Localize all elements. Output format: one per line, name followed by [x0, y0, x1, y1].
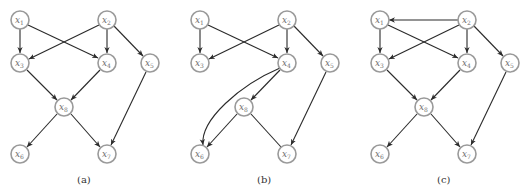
node-x4: x4 [278, 54, 296, 72]
graph-a: x1 x2 x3 x4 x5 x8 x6 x7 (a) [11, 11, 159, 185]
node-x1: x1 [371, 11, 389, 29]
node-x6: x6 [191, 145, 209, 163]
node-x7: x7 [278, 145, 296, 163]
graph-b: x1 x2 x3 x4 x5 x8 x6 x7 (b) [191, 11, 339, 185]
node-x1: x1 [11, 11, 29, 29]
caption-c: (c) [437, 174, 451, 185]
node-x5: x5 [501, 54, 519, 72]
node-x4: x4 [458, 54, 476, 72]
node-x2: x2 [98, 11, 116, 29]
edge-x1-x4 [28, 25, 98, 58]
edge-x1-x4 [388, 25, 458, 58]
edge-x1-x4 [208, 25, 278, 58]
edge-x8-x7-undirected [251, 114, 281, 147]
edge-x2-x5 [474, 26, 503, 56]
edge-x8-x6 [27, 114, 57, 147]
node-x2: x2 [278, 11, 296, 29]
node-x2: x2 [458, 11, 476, 29]
caption-b: (b) [257, 174, 271, 185]
edge-x4-x8 [431, 70, 460, 100]
edge-x2-x5 [114, 26, 143, 56]
edge-x8-x6 [387, 114, 417, 147]
edge-x5-x7 [291, 72, 326, 145]
node-x8: x8 [415, 98, 433, 116]
edge-x8-x7 [431, 114, 460, 147]
edge-x2-x5 [294, 26, 323, 56]
node-x6: x6 [371, 145, 389, 163]
graph-c: x1 x2 x3 x4 x5 x8 x6 x7 (c) [371, 11, 519, 185]
edge-x5-x7 [471, 72, 506, 145]
node-x5: x5 [141, 54, 159, 72]
node-x6: x6 [11, 145, 29, 163]
edge-x3-x8 [387, 70, 417, 100]
node-x3: x3 [371, 54, 389, 72]
node-x7: x7 [458, 145, 476, 163]
node-x1: x1 [191, 11, 209, 29]
edge-x3-x8 [27, 70, 57, 100]
node-x3: x3 [191, 54, 209, 72]
node-x5: x5 [321, 54, 339, 72]
edge-x5-x7 [111, 72, 146, 145]
node-x3: x3 [11, 54, 29, 72]
edge-x4-x8 [71, 70, 100, 100]
node-x8: x8 [235, 98, 253, 116]
node-x4: x4 [98, 54, 116, 72]
caption-a: (a) [77, 174, 91, 185]
edge-x8-x7 [71, 114, 100, 147]
causal-graphs-figure: x1 x2 x3 x4 x5 x8 x6 x7 (a) x1 x2 x3 x4 … [0, 0, 524, 192]
node-x8: x8 [55, 98, 73, 116]
node-x7: x7 [98, 145, 116, 163]
